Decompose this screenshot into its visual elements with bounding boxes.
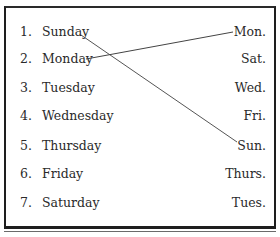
matching-row: 4. Wednesday Fri. — [0, 106, 280, 126]
day-abbreviation[interactable]: Sun. — [237, 136, 266, 156]
matching-row: 3. Tuesday Wed. — [0, 78, 280, 98]
day-abbreviation[interactable]: Wed. — [235, 78, 266, 98]
item-number: 5. — [20, 136, 32, 156]
item-number: 4. — [20, 106, 32, 126]
item-number: 3. — [20, 78, 32, 98]
matching-row: 1. Sunday Mon. — [0, 22, 280, 42]
matching-row: 6. Friday Thurs. — [0, 164, 280, 184]
day-name[interactable]: Tuesday — [42, 78, 95, 98]
day-name[interactable]: Friday — [42, 164, 83, 184]
day-abbreviation[interactable]: Fri. — [243, 106, 266, 126]
matching-row: 5. Thursday Sun. — [0, 136, 280, 156]
day-name[interactable]: Thursday — [42, 136, 101, 156]
day-name[interactable]: Sunday — [42, 22, 89, 42]
matching-row: 2. Monday Sat. — [0, 49, 280, 69]
day-abbreviation[interactable]: Thurs. — [225, 164, 266, 184]
day-abbreviation[interactable]: Tues. — [232, 193, 266, 213]
item-number: 6. — [20, 164, 32, 184]
frame-underline — [4, 231, 276, 232]
item-number: 2. — [20, 49, 32, 69]
day-abbreviation[interactable]: Sat. — [241, 49, 266, 69]
item-number: 7. — [20, 193, 32, 213]
day-name[interactable]: Wednesday — [42, 106, 114, 126]
day-name[interactable]: Monday — [42, 49, 93, 69]
item-number: 1. — [20, 22, 32, 42]
day-name[interactable]: Saturday — [42, 193, 100, 213]
day-abbreviation[interactable]: Mon. — [234, 22, 266, 42]
matching-row: 7. Saturday Tues. — [0, 193, 280, 213]
